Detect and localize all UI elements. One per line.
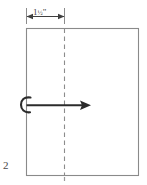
dimension-arrowhead-right-icon	[58, 14, 65, 19]
figure-number: 2	[3, 160, 9, 171]
dimension-unit: "	[43, 7, 47, 17]
dimension-label: 1½"	[33, 8, 46, 17]
paper-fold-diagram	[0, 0, 147, 185]
figure-canvas: 1½" 2	[0, 0, 147, 185]
